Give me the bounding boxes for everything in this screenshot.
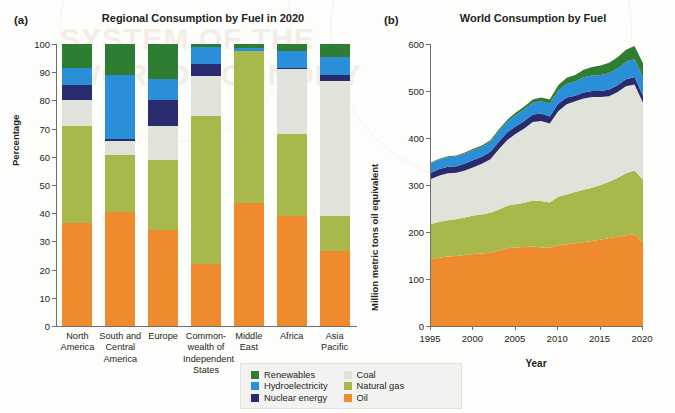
panel-a-category-label-line: Central — [97, 342, 143, 353]
panel-a-bar-segment-hydroelectricity[interactable] — [148, 79, 178, 100]
panel-a-bar-segment-nuclear-energy[interactable] — [62, 85, 92, 101]
panel-a-bar-segment-hydroelectricity[interactable] — [234, 48, 264, 51]
panel-b-y-axis-line — [430, 44, 431, 327]
panel-b-x-tick-label: 2015 — [589, 333, 610, 344]
panel-b-y-tick-label: 300 — [408, 180, 424, 191]
panel-a-bar-segment-natural-gas[interactable] — [105, 155, 135, 211]
panel-b-y-tick — [426, 279, 430, 280]
panel-a-bar-segment-coal[interactable] — [105, 141, 135, 155]
panel-b-y-axis-title: Million metric tons oil equivalent — [369, 164, 380, 311]
panel-a-y-tick-label: 50 — [39, 180, 50, 191]
panel-a-bar-6[interactable] — [320, 44, 350, 326]
panel-b-x-axis-line — [430, 326, 643, 327]
panel-a-category-label-4: MiddleEast — [226, 331, 272, 354]
panel-a-y-tick-label: 70 — [39, 123, 50, 134]
panel-a-bar-segment-nuclear-energy[interactable] — [105, 139, 135, 141]
legend-item-label: Renewables — [264, 370, 315, 380]
panel-a-bar-segment-coal[interactable] — [277, 69, 307, 134]
panel-a-bar-3[interactable] — [191, 44, 221, 326]
panel-a-bar-segment-natural-gas[interactable] — [191, 116, 221, 264]
panel-a-bar-segment-renewables[interactable] — [62, 44, 92, 68]
panel-a-category-label-2: Europe — [140, 331, 186, 342]
panel-a-bar-segment-nuclear-energy[interactable] — [320, 75, 350, 81]
panel-a-category-label-0: NorthAmerica — [54, 331, 100, 354]
panel-a-y-tick — [52, 129, 56, 130]
panel-a-bar-segment-renewables[interactable] — [191, 44, 221, 47]
panel-a-y-tick — [52, 213, 56, 214]
legend-swatch-icon — [344, 382, 352, 390]
panel-a-bar-segment-oil[interactable] — [105, 212, 135, 326]
panel-a-tag: (a) — [14, 14, 28, 26]
panel-b-x-tick — [600, 326, 601, 330]
panel-a-bar-segment-oil[interactable] — [62, 223, 92, 326]
panel-a-y-tick-label: 60 — [39, 151, 50, 162]
panel-a-y-tick — [52, 270, 56, 271]
panel-a-bar-segment-hydroelectricity[interactable] — [320, 57, 350, 75]
panel-b-x-tick-label: 2005 — [504, 333, 525, 344]
panel-a-bar-segment-renewables[interactable] — [277, 44, 307, 51]
panel-a-bar-segment-hydroelectricity[interactable] — [191, 47, 221, 64]
panel-a-bar-segment-oil[interactable] — [191, 264, 221, 326]
legend-item-label: Oil — [357, 393, 368, 403]
panel-b-title: World Consumption by Fuel — [418, 12, 648, 24]
panel-a-bar-2[interactable] — [148, 44, 178, 326]
panel-b-tag: (b) — [384, 14, 399, 26]
panel-a-bar-segment-natural-gas[interactable] — [148, 160, 178, 231]
panel-a-y-tick-label: 100 — [34, 39, 50, 50]
legend-item-renewables[interactable]: Renewables — [251, 369, 328, 380]
panel-a-bar-segment-coal[interactable] — [148, 126, 178, 160]
panel-a-bar-segment-natural-gas[interactable] — [62, 126, 92, 223]
legend-item-label: Coal — [357, 370, 376, 380]
panel-a-bar-segment-renewables[interactable] — [105, 44, 135, 75]
panel-b-y-tick — [426, 232, 430, 233]
panel-a-bar-segment-natural-gas[interactable] — [277, 134, 307, 216]
panel-a-category-label-line: Africa — [269, 331, 315, 342]
panel-a-bar-segment-hydroelectricity[interactable] — [277, 51, 307, 68]
panel-a-category-label-line: East — [226, 342, 272, 353]
panel-a-category-label-line: North — [54, 331, 100, 342]
panel-a-bar-segment-nuclear-energy[interactable] — [191, 64, 221, 77]
panel-a-regional-consumption: (a) Regional Consumption by Fuel in 2020… — [0, 0, 368, 390]
panel-a-bar-segment-natural-gas[interactable] — [234, 51, 264, 203]
panel-a-bar-4[interactable] — [234, 44, 264, 326]
legend-item-coal[interactable]: Coal — [344, 369, 405, 380]
legend-item-natural-gas[interactable]: Natural gas — [344, 381, 405, 392]
panel-a-bar-segment-coal[interactable] — [320, 81, 350, 216]
panel-b-y-tick-label: 100 — [408, 274, 424, 285]
panel-a-title: Regional Consumption by Fuel in 2020 — [58, 12, 348, 24]
panel-a-category-label-1: South andCentralAmerica — [97, 331, 143, 365]
panel-a-bar-segment-oil[interactable] — [234, 203, 264, 326]
panel-a-bar-segment-hydroelectricity[interactable] — [105, 75, 135, 139]
panel-a-y-tick — [52, 326, 56, 327]
panel-a-x-axis-line — [56, 326, 357, 327]
panel-a-y-tick-label: 40 — [39, 208, 50, 219]
panel-a-category-label-line: America — [54, 342, 100, 353]
legend-item-oil[interactable]: Oil — [344, 392, 405, 403]
panel-a-bar-segment-renewables[interactable] — [234, 44, 264, 48]
panel-a-bar-segment-renewables[interactable] — [320, 44, 350, 57]
panel-a-bar-segment-oil[interactable] — [148, 230, 178, 326]
panel-a-bar-5[interactable] — [277, 44, 307, 326]
panel-a-bar-segment-renewables[interactable] — [148, 44, 178, 79]
panel-a-bar-segment-natural-gas[interactable] — [320, 216, 350, 251]
panel-b-y-tick-label: 200 — [408, 227, 424, 238]
panel-a-category-label-3: Common-wealth ofIndependentStates — [183, 331, 229, 377]
panel-a-bar-segment-oil[interactable] — [277, 216, 307, 326]
panel-b-x-tick — [642, 326, 643, 330]
panel-a-bar-0[interactable] — [62, 44, 92, 326]
panel-b-area-svg — [431, 44, 643, 326]
legend-item-nuclear-energy[interactable]: Nuclear energy — [251, 392, 328, 403]
panel-a-bar-segment-hydroelectricity[interactable] — [62, 68, 92, 85]
panel-a-plot-area: 0102030405060708090100NorthAmericaSouth … — [56, 44, 356, 326]
panel-a-category-label-line: Middle — [226, 331, 272, 342]
panel-a-bar-segment-nuclear-energy[interactable] — [277, 68, 307, 69]
legend-swatch-icon — [251, 371, 259, 379]
panel-b-x-tick-label: 2000 — [462, 333, 483, 344]
panel-b-x-tick-label: 2010 — [547, 333, 568, 344]
legend-item-hydroelectricity[interactable]: Hydroelectricity — [251, 381, 328, 392]
panel-a-bar-segment-nuclear-energy[interactable] — [148, 100, 178, 125]
panel-a-bar-segment-coal[interactable] — [191, 76, 221, 115]
panel-a-bar-segment-coal[interactable] — [62, 100, 92, 126]
panel-a-bar-segment-oil[interactable] — [320, 251, 350, 326]
panel-a-bar-1[interactable] — [105, 44, 135, 326]
